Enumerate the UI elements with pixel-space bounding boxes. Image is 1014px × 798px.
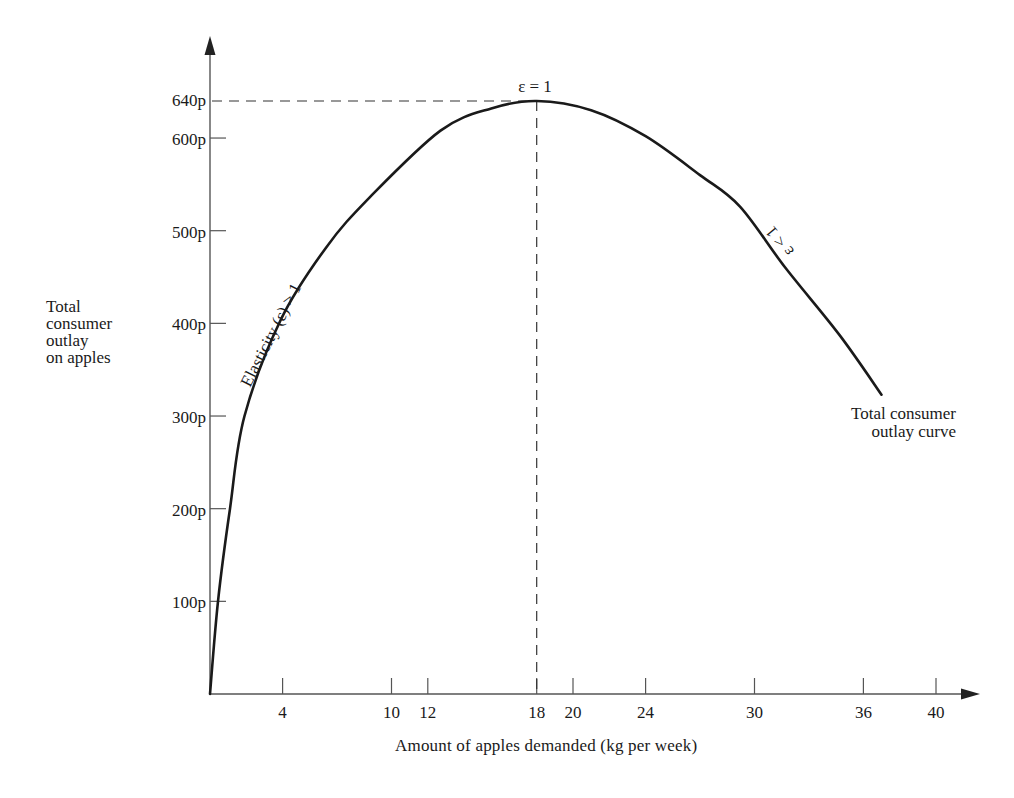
x-tick-label: 20: [565, 703, 582, 722]
inelastic-segment-label: ε < 1: [762, 222, 798, 260]
chart-canvas: 41012182024303640 100p200p300p400p500p60…: [0, 0, 1014, 798]
y-tick-label: 640p: [172, 91, 206, 110]
y-ticks: 100p200p300p400p500p600p640p: [172, 91, 226, 612]
total-outlay-curve: [210, 101, 882, 694]
x-tick-label: 10: [383, 703, 400, 722]
x-tick-label: 30: [746, 703, 763, 722]
x-axis-label: Amount of apples demanded (kg per week): [395, 736, 697, 756]
x-tick-label: 24: [637, 703, 655, 722]
x-tick-label: 12: [419, 703, 436, 722]
y-tick-label: 200p: [172, 501, 206, 520]
elastic-segment-label: Elasticity (ε) > 1: [237, 280, 305, 390]
peak-elasticity-label: ε = 1: [518, 77, 552, 96]
y-axis-label: Total consumer outlay on apples: [46, 298, 112, 366]
curve-name-line1: Total consumer: [808, 405, 956, 423]
curve-name-label: Total consumer outlay curve: [808, 405, 956, 441]
y-axis-arrow-icon: [205, 36, 216, 55]
y-tick-label: 400p: [172, 315, 206, 334]
y-tick-label: 600p: [172, 130, 206, 149]
y-tick-label: 300p: [172, 408, 206, 427]
x-tick-label: 18: [528, 703, 545, 722]
reference-lines: [212, 101, 537, 694]
x-tick-label: 36: [855, 703, 872, 722]
y-tick-label: 100p: [172, 593, 206, 612]
y-tick-label: 500p: [172, 223, 206, 242]
x-tick-label: 4: [278, 703, 287, 722]
x-ticks: 41012182024303640: [278, 678, 944, 722]
curve-name-line2: outlay curve: [808, 423, 956, 441]
x-axis-arrow-icon: [961, 689, 980, 700]
x-tick-label: 40: [928, 703, 945, 722]
